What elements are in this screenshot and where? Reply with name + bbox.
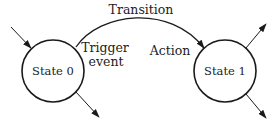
state-0-label: State 0 [32,64,74,78]
state-1-node: State 1 [194,40,256,102]
trigger-event-label-line1: Trigger [81,40,129,55]
outgoing-arrow-state-1-down [246,94,266,118]
outgoing-arrow-state-1-up [246,24,266,48]
state-diagram: State 0 Transition Trigger event Action … [0,0,278,131]
transition-label: Transition [109,2,174,17]
outgoing-arrow-state-0 [76,92,99,117]
action-label: Action [149,43,191,58]
incoming-arrow-state-0 [11,27,31,48]
state-1-label: State 1 [204,64,246,78]
trigger-event-label-line2: event [89,54,124,69]
state-0-node: State 0 [22,40,84,102]
